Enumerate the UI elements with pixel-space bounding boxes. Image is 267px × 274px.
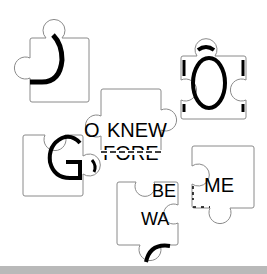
piece-be-label: BE: [152, 181, 176, 201]
piece-knew-label: KNEW: [107, 119, 167, 141]
piece-me-label: ME: [204, 174, 234, 196]
puzzle-piece-me[interactable]: ME: [192, 146, 254, 224]
puzzle-piece-d[interactable]: D: [0, 0, 89, 102]
puzzle-piece-be-wa[interactable]: BE WA: [117, 181, 178, 262]
puzzle-piece-o[interactable]: [181, 39, 246, 119]
puzzle-board: D O KNEW FORE G: [0, 0, 267, 266]
bottom-bar: [0, 266, 267, 274]
piece-wa-sublabel: WA: [141, 209, 169, 229]
knew-prefix: O: [84, 119, 100, 141]
puzzle-piece-knew[interactable]: O KNEW FORE: [84, 89, 177, 164]
